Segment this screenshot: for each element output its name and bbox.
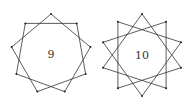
vertex-dot <box>15 73 17 75</box>
vertex-dot <box>36 91 38 93</box>
vertex-dot <box>180 41 182 43</box>
star-polygon-10: 10 <box>102 13 182 97</box>
vertex-dot <box>117 21 119 23</box>
star-10-label: 10 <box>135 49 149 62</box>
vertex-dot <box>76 22 78 24</box>
vertex-dot <box>102 67 104 69</box>
vertex-dot <box>50 13 52 15</box>
vertex-dot <box>11 46 13 48</box>
vertex-dot <box>89 46 91 48</box>
vertex-dot <box>165 21 167 23</box>
star-9-label: 9 <box>48 48 55 61</box>
star-polygon-diagram: 9 10 <box>0 0 194 105</box>
vertex-dot <box>165 87 167 89</box>
vertex-dot <box>117 87 119 89</box>
vertex-dot <box>141 13 143 15</box>
vertex-dot <box>64 91 66 93</box>
vertex-dot <box>180 67 182 69</box>
vertex-dot <box>24 22 26 24</box>
vertex-dot <box>102 41 104 43</box>
vertex-dot <box>141 95 143 97</box>
vertex-dot <box>85 73 87 75</box>
star-polygon-9: 9 <box>11 13 92 93</box>
